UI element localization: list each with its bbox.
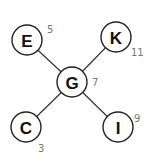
node-c: C 3 (11, 112, 44, 154)
node-label-e: E (21, 32, 32, 51)
node-value-g: 7 (92, 77, 98, 88)
node-value-c: 3 (38, 143, 44, 154)
node-label-i: I (116, 119, 121, 138)
node-value-e: 5 (47, 24, 53, 35)
node-value-k: 11 (131, 47, 144, 58)
node-label-c: C (20, 119, 32, 138)
node-i: I 9 (103, 112, 140, 142)
tree-diagram: E 5 K 11 G 7 C 3 I 9 (0, 0, 155, 165)
node-e: E 5 (12, 24, 53, 55)
node-g: G 7 (57, 67, 98, 97)
node-label-k: K (110, 29, 123, 48)
node-label-g: G (65, 74, 78, 93)
node-value-i: 9 (134, 113, 140, 124)
node-k: K 11 (101, 22, 144, 58)
